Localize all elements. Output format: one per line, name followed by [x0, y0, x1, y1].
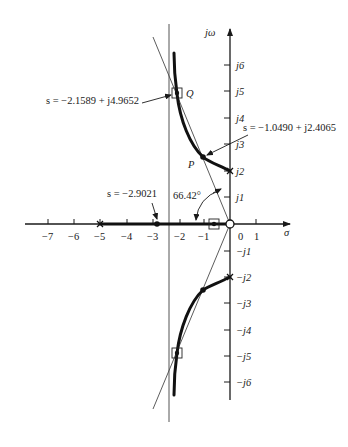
breakaway-point — [154, 221, 160, 227]
point-p — [200, 154, 206, 160]
svg-text:−j6: −j6 — [236, 377, 252, 388]
angle-label: 66.42° — [173, 190, 201, 201]
origin-open-circle — [226, 220, 234, 228]
svg-text:0: 0 — [238, 231, 243, 242]
svg-text:j2: j2 — [234, 166, 245, 177]
svg-text:−2: −2 — [174, 231, 185, 242]
root-locus-plot: −7 −6 −5 −4 −3 −2 −1 0 1 j6 j5 j4 j3 j2 … — [0, 0, 348, 447]
svg-text:j5: j5 — [234, 86, 244, 97]
svg-text:−j2: −j2 — [236, 272, 252, 283]
svg-text:−j4: −j4 — [236, 325, 252, 336]
locus-lower-branch — [174, 277, 230, 395]
svg-text:−1: −1 — [198, 231, 209, 242]
svg-text:−6: −6 — [68, 231, 79, 242]
point-q-arrow — [142, 95, 171, 103]
svg-text:−4: −4 — [121, 231, 133, 242]
breakaway-arrow — [152, 203, 157, 219]
point-p-annotation: s = −1.0490 + j2.4065 — [243, 122, 336, 133]
svg-text:j6: j6 — [234, 60, 245, 71]
point-p-label: P — [187, 159, 195, 170]
jw-axis-label: jω — [203, 27, 215, 38]
svg-text:j1: j1 — [234, 192, 244, 203]
point-q-annotation: s = −2.1589 + j4.9652 — [46, 95, 139, 106]
svg-text:−j1: −j1 — [236, 246, 251, 257]
svg-text:−j5: −j5 — [236, 351, 251, 362]
root-locus-diagram: −7 −6 −5 −4 −3 −2 −1 0 1 j6 j5 j4 j3 j2 … — [0, 0, 348, 447]
svg-text:−j3: −j3 — [236, 298, 251, 309]
point-p-conjugate — [200, 287, 206, 293]
svg-text:−5: −5 — [94, 231, 105, 242]
sigma-axis-label: σ — [284, 227, 290, 238]
damping-line-lower — [153, 224, 230, 409]
breakaway-annotation: s = −2.9021 — [107, 188, 157, 199]
locus-upper-branch — [174, 53, 230, 171]
svg-text:1: 1 — [254, 231, 259, 242]
point-q-label: Q — [186, 88, 194, 99]
svg-text:−3: −3 — [147, 231, 158, 242]
svg-text:−7: −7 — [42, 231, 53, 242]
